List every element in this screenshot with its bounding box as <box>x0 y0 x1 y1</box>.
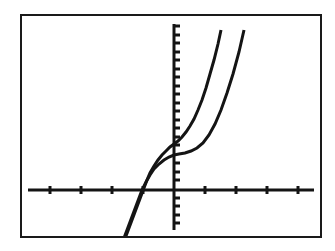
plot-surface[interactable] <box>22 16 320 236</box>
x-axis-group <box>28 186 314 194</box>
y-axis-group <box>174 24 180 230</box>
graph-canvas <box>22 16 320 236</box>
screenshot-root <box>0 0 335 251</box>
calculator-screen-frame <box>20 14 322 238</box>
